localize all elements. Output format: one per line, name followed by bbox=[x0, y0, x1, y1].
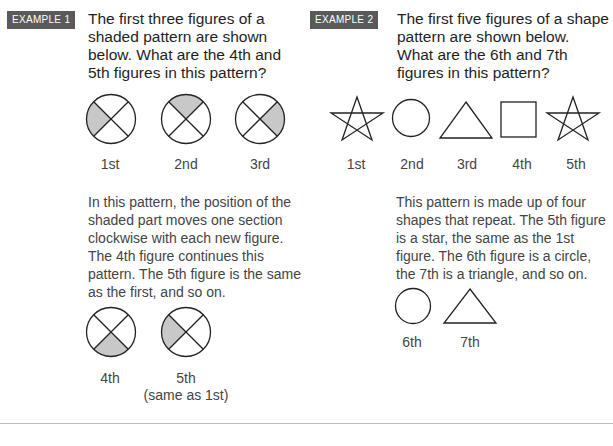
example-2-figure-2nd-circle bbox=[391, 98, 431, 138]
example-1-explanation: In this pattern, the position of the sha… bbox=[88, 193, 303, 301]
example-1-label-3rd: 3rd bbox=[230, 156, 290, 172]
example-2-label-5th: 5th bbox=[546, 156, 606, 172]
example-2-answer-6th-circle bbox=[394, 287, 432, 325]
example-2-label-3rd: 3rd bbox=[437, 156, 497, 172]
example-2-figure-5th-star bbox=[546, 96, 600, 142]
example-1-figure-2nd bbox=[161, 94, 211, 144]
example-1-label-5th: 5th bbox=[156, 370, 216, 386]
example-2-label-1st: 1st bbox=[326, 156, 386, 172]
example-2-explanation: This pattern is made up of four shapes t… bbox=[396, 193, 611, 283]
example-2-figure-4th-square bbox=[500, 101, 537, 138]
example-2-label-7th: 7th bbox=[440, 334, 500, 350]
example-1-question: The first three figures of a shaded patt… bbox=[88, 10, 303, 82]
example-2-label-4th: 4th bbox=[492, 156, 552, 172]
example-2-answer-7th-triangle bbox=[443, 288, 497, 324]
example-1-answer-4th bbox=[86, 307, 136, 357]
example-2-label-2nd: 2nd bbox=[382, 156, 442, 172]
example-1-badge: EXAMPLE 1 bbox=[7, 11, 75, 29]
example-2-figure-1st-star bbox=[330, 96, 384, 142]
example-1-label-1st: 1st bbox=[80, 156, 140, 172]
example-2-badge: EXAMPLE 2 bbox=[310, 11, 378, 29]
example-1-figure-3rd bbox=[235, 94, 285, 144]
bottom-divider bbox=[0, 423, 613, 424]
example-2-label-6th: 6th bbox=[382, 334, 442, 350]
example-1-figure-1st bbox=[86, 94, 136, 144]
example-1-answer-5th bbox=[161, 307, 211, 357]
example-1-label-5th-note: (same as 1st) bbox=[136, 387, 236, 403]
example-1-label-2nd: 2nd bbox=[156, 156, 216, 172]
example-2-figure-3rd-triangle bbox=[439, 101, 493, 139]
example-1-label-4th: 4th bbox=[80, 370, 140, 386]
example-2-question: The first five figures of a shape patter… bbox=[397, 10, 609, 82]
